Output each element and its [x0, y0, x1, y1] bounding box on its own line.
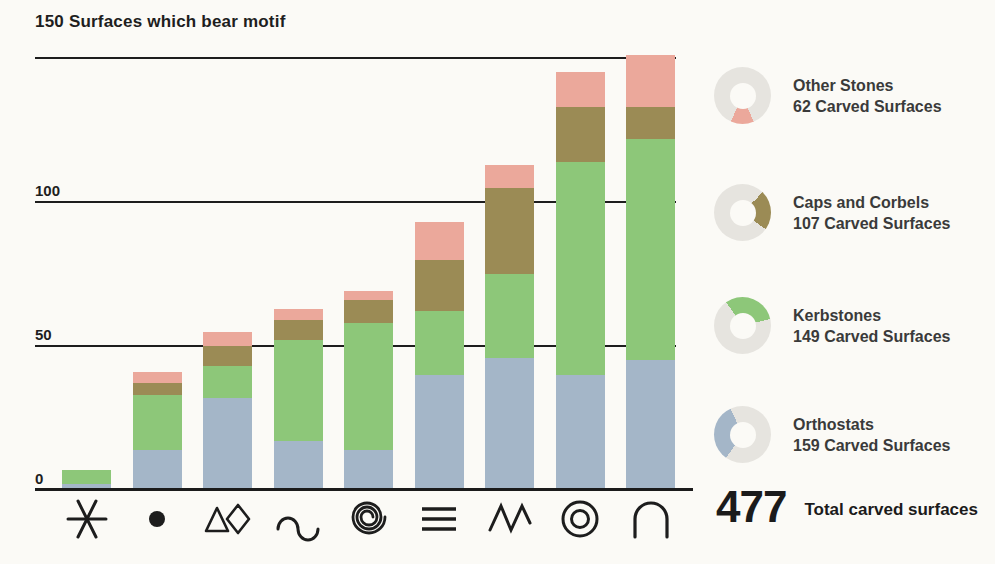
total-value: 477 [716, 482, 786, 532]
legend-text: Kerbstones149 Carved Surfaces [793, 305, 950, 347]
bar-zigzag-segment-caps-and-corbels [485, 188, 534, 274]
donut-chart-other-stones [714, 67, 771, 124]
legend-item-other-stones: Other Stones62 Carved Surfaces [714, 67, 942, 124]
motif-parallel-lines-icon [414, 496, 464, 542]
donut-chart-orthostats [714, 406, 771, 463]
bar-serpentine-segment-kerbstones [274, 340, 323, 441]
bar-six-point-star-segment-kerbstones [62, 470, 111, 484]
bar-spiral [344, 291, 393, 490]
bar-zigzag-segment-other-stones [485, 165, 534, 188]
bar-triangle-and-lozenge-segment-orthostats [203, 398, 252, 490]
legend-text: Orthostats159 Carved Surfaces [793, 414, 950, 456]
legend-category-count: 149 Carved Surfaces [793, 326, 950, 347]
legend-item-caps-and-corbels: Caps and Corbels107 Carved Surfaces [714, 184, 950, 241]
bar-dot [133, 372, 182, 490]
legend-category-name: Other Stones [793, 75, 942, 96]
motif-arc-icon [626, 496, 676, 542]
motif-zigzag-icon [485, 496, 535, 542]
bar-triangle-and-lozenge-segment-kerbstones [203, 366, 252, 398]
legend-category-name: Kerbstones [793, 305, 950, 326]
legend-item-orthostats: Orthostats159 Carved Surfaces [714, 406, 950, 463]
bar-zigzag-segment-kerbstones [485, 274, 534, 358]
motif-serpentine-icon [273, 496, 323, 542]
legend-item-kerbstones: Kerbstones149 Carved Surfaces [714, 297, 950, 354]
donut-chart-kerbstones [714, 297, 771, 354]
bar-triangle-and-lozenge-segment-other-stones [203, 332, 252, 346]
motif-dot-icon [132, 496, 182, 542]
bar-arc-segment-other-stones [626, 55, 675, 107]
donut-chart-caps-and-corbels [714, 184, 771, 241]
bar-parallel-lines-segment-kerbstones [415, 311, 464, 374]
bar-spiral-segment-kerbstones [344, 323, 393, 450]
bar-arc-segment-caps-and-corbels [626, 107, 675, 139]
bar-spiral-segment-other-stones [344, 291, 393, 300]
donut-hole [730, 313, 756, 339]
bar-triangle-and-lozenge-segment-caps-and-corbels [203, 346, 252, 366]
y-tick-50: 50 [35, 326, 52, 343]
legend-text: Other Stones62 Carved Surfaces [793, 75, 942, 117]
bar-arc-segment-kerbstones [626, 139, 675, 361]
donut-hole [730, 422, 756, 448]
motif-spiral-icon [344, 496, 394, 542]
bar-dot-segment-kerbstones [133, 395, 182, 450]
bar-zigzag [485, 165, 534, 490]
stacked-bar-chart: 150 Surfaces which bear motif 050100 [0, 0, 700, 564]
bar-arc-segment-orthostats [626, 360, 675, 490]
bar-concentric-circles-segment-kerbstones [556, 162, 605, 375]
donut-hole [730, 200, 756, 226]
total-label: Total carved surfaces [804, 500, 978, 520]
bar-spiral-segment-orthostats [344, 450, 393, 490]
bar-parallel-lines-segment-caps-and-corbels [415, 260, 464, 312]
bar-spiral-segment-caps-and-corbels [344, 300, 393, 323]
bar-zigzag-segment-orthostats [485, 358, 534, 490]
legend-category-name: Caps and Corbels [793, 192, 950, 213]
bar-dot-segment-caps-and-corbels [133, 383, 182, 395]
bar-dot-segment-other-stones [133, 372, 182, 384]
bar-dot-segment-orthostats [133, 450, 182, 490]
legend: Other Stones62 Carved SurfacesCaps and C… [702, 0, 995, 564]
bar-serpentine [274, 309, 323, 490]
bar-concentric-circles-segment-caps-and-corbels [556, 107, 605, 162]
chart-title: 150 Surfaces which bear motif [35, 12, 286, 32]
bar-concentric-circles-segment-other-stones [556, 72, 605, 107]
legend-text: Caps and Corbels107 Carved Surfaces [793, 192, 950, 234]
bar-parallel-lines-segment-orthostats [415, 375, 464, 490]
motif-triangle-and-lozenge-icon [203, 496, 253, 542]
bar-six-point-star [62, 470, 111, 490]
legend-category-count: 107 Carved Surfaces [793, 213, 950, 234]
bar-concentric-circles [556, 72, 605, 490]
legend-category-count: 62 Carved Surfaces [793, 96, 942, 117]
bar-triangle-and-lozenge [203, 332, 252, 490]
bar-concentric-circles-segment-orthostats [556, 375, 605, 490]
total-row: 477 Total carved surfaces [716, 482, 978, 532]
y-tick-0: 0 [35, 470, 43, 487]
bar-parallel-lines-segment-other-stones [415, 222, 464, 259]
x-axis-line [35, 488, 693, 491]
legend-category-name: Orthostats [793, 414, 950, 435]
bar-serpentine-segment-caps-and-corbels [274, 320, 323, 340]
legend-category-count: 159 Carved Surfaces [793, 435, 950, 456]
motif-concentric-circles-icon [555, 496, 605, 542]
bar-parallel-lines [415, 222, 464, 490]
gridline-150 [35, 57, 676, 59]
donut-hole [730, 83, 756, 109]
infographic-carved-surfaces: 150 Surfaces which bear motif 050100 Oth… [0, 0, 995, 564]
bar-serpentine-segment-orthostats [274, 441, 323, 490]
bar-serpentine-segment-other-stones [274, 309, 323, 321]
motif-six-point-star-icon [62, 496, 112, 542]
bar-arc [626, 55, 675, 490]
y-tick-100: 100 [35, 182, 60, 199]
